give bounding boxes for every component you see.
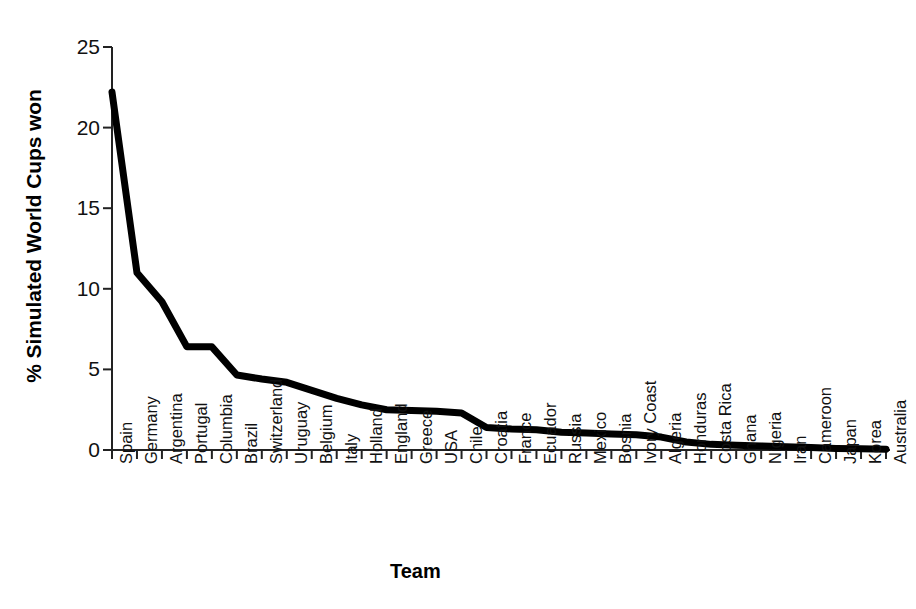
x-axis-tick-label: Belgium	[318, 404, 335, 464]
x-axis-tick-label: Iran	[792, 436, 809, 464]
x-axis-tick-label: Spain	[118, 422, 135, 464]
x-axis-tick-label: England	[393, 403, 410, 464]
x-axis-tick-label: Chile	[468, 426, 485, 464]
x-axis-tick-label: Russia	[567, 414, 584, 464]
plot-area	[0, 0, 916, 609]
x-axis-tick-label: Mexico	[592, 412, 609, 464]
x-axis-tick-label: Costa Rica	[717, 383, 734, 464]
x-axis-tick-label: Italy	[343, 434, 360, 464]
x-axis-tick-label: USA	[443, 430, 460, 464]
x-axis-tick-label: Bosnia	[617, 414, 634, 464]
x-axis-tick-label: Switzerland	[268, 379, 285, 464]
x-axis-tick-label: Nigeria	[767, 412, 784, 464]
x-axis-tick-label: France	[517, 413, 534, 464]
x-axis-tick-label: Portugal	[193, 403, 210, 464]
x-axis-tick-label: Cameroon	[817, 387, 834, 464]
x-axis-tick-label: Argentina	[168, 393, 185, 464]
x-axis-tick-label: Honduras	[692, 392, 709, 464]
x-axis-tick-label: Columbia	[218, 394, 235, 464]
x-axis-tick-label: Korea	[867, 420, 884, 464]
x-axis-tick-label: Australia	[892, 400, 909, 464]
x-axis-tick-label: Ivory Coast	[642, 381, 659, 464]
x-axis-tick-label: Japan	[842, 419, 859, 464]
x-axis-tick-label: Ghana	[742, 414, 759, 464]
x-axis-tick-label: Greece	[418, 410, 435, 464]
x-axis-tick-label: Uruguay	[293, 402, 310, 464]
chart-container: % Simulated World Cups won 0510152025 Sp…	[0, 0, 916, 609]
x-axis-tick-label: Germany	[143, 396, 160, 464]
x-axis-tick-label: Croatia	[493, 411, 510, 464]
x-axis-tick-label: Ecuador	[542, 403, 559, 464]
x-axis-tick-label: Brazil	[243, 423, 260, 464]
x-axis-tick-label: Holland	[368, 408, 385, 464]
x-axis-tick-label: Algeria	[667, 413, 684, 464]
x-axis-title: Team	[390, 560, 441, 583]
